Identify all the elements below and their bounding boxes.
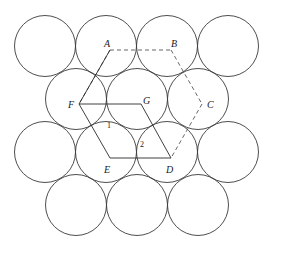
- vertex-label-A: A: [104, 39, 110, 49]
- packed-circle: [46, 175, 107, 236]
- edge-B-C: [171, 50, 202, 104]
- figure-canvas: ABCDEFG12: [0, 0, 286, 266]
- vertex-label-B: B: [171, 39, 177, 49]
- packed-circle: [46, 69, 107, 130]
- packed-circle: [168, 69, 229, 130]
- circles-layer: [15, 16, 259, 236]
- packed-circle: [137, 16, 198, 77]
- vertex-label-C: C: [207, 100, 214, 110]
- vertex-label-G: G: [143, 96, 150, 106]
- packed-circle: [198, 16, 259, 77]
- interstice-label-2: 2: [140, 141, 144, 149]
- circle-packing-diagram: [0, 0, 286, 266]
- vertex-label-F: F: [68, 100, 74, 110]
- edge-F-A: [79, 50, 110, 104]
- vertex-label-E: E: [104, 165, 110, 175]
- interstice-label-1: 1: [107, 122, 111, 130]
- packed-circle: [168, 175, 229, 236]
- packed-circle: [15, 16, 76, 77]
- packed-circle: [15, 122, 76, 183]
- packed-circle: [107, 69, 168, 130]
- packed-circle: [198, 122, 259, 183]
- packed-circle: [107, 175, 168, 236]
- vertex-label-D: D: [166, 165, 173, 175]
- hexagon-solid-edges: [79, 50, 171, 158]
